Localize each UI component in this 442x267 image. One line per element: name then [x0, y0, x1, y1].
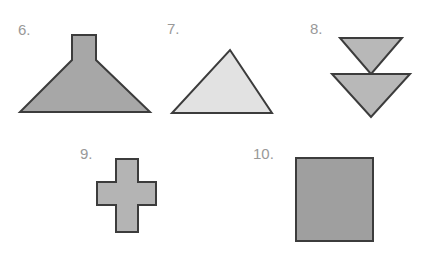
- shape-triangle-shape: [166, 45, 278, 119]
- shape-plus-cross-shape: [92, 154, 162, 238]
- shape-9-polygon: [97, 159, 156, 232]
- shape-double-chevron-down-arrow-shape: [314, 33, 416, 123]
- shape-7-polygon: [172, 50, 272, 113]
- worksheet-page: 6. 7. 8. 9. 10.: [0, 0, 442, 267]
- shape-6-polygon: [20, 35, 150, 112]
- shape-label-10: 10.: [253, 146, 274, 161]
- shape-10-polygon: [296, 158, 373, 241]
- shape-funnel-lamp-shape: [14, 30, 156, 118]
- shape-8-polygon: [332, 38, 410, 117]
- shape-label-9: 9.: [80, 146, 93, 161]
- shape-square-shape: [291, 153, 379, 247]
- shape-label-7: 7.: [167, 21, 180, 36]
